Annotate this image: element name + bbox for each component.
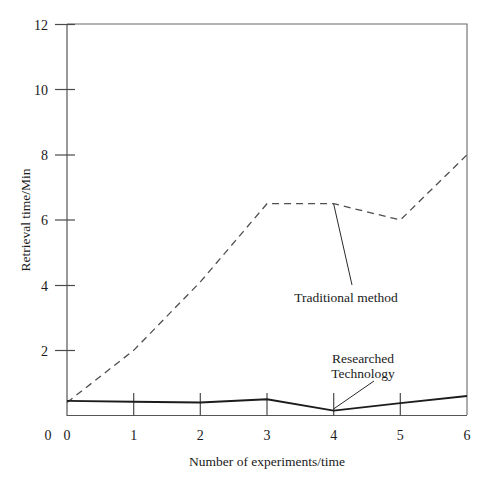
y-axis-ticks [55, 25, 75, 351]
x-axis-title: Number of experiments/time [189, 454, 345, 469]
y-tick-label-10: 10 [34, 83, 48, 98]
line-chart: 12 10 8 6 4 2 0 0 1 2 3 4 5 6 Retrieval … [0, 0, 498, 482]
x-tick-label-3: 3 [264, 428, 271, 443]
y-tick-label-2: 2 [41, 344, 48, 359]
chart-page: 12 10 8 6 4 2 0 0 1 2 3 4 5 6 Retrieval … [0, 0, 498, 482]
x-tick-label-1: 1 [130, 428, 137, 443]
series-traditional-method [67, 155, 467, 403]
leader-line-researched [334, 381, 375, 409]
y-tick-label-8: 8 [41, 148, 48, 163]
annotation-traditional-method: Traditional method [294, 290, 398, 305]
x-tick-label-0: 0 [64, 428, 71, 443]
y-tick-label-0: 0 [45, 428, 52, 443]
x-axis-ticks [134, 393, 401, 416]
annotation-researched-line1: Researched [332, 351, 394, 366]
x-tick-label-2: 2 [197, 428, 204, 443]
leader-line-traditional [334, 204, 352, 285]
y-tick-label-6: 6 [41, 213, 48, 228]
annotation-researched-line2: Technology [331, 366, 395, 381]
x-tick-label-5: 5 [397, 428, 404, 443]
x-tick-label-6: 6 [464, 428, 471, 443]
x-tick-label-4: 4 [330, 428, 337, 443]
y-axis-title: Retrieval time/Min [18, 168, 33, 271]
y-tick-label-4: 4 [41, 279, 48, 294]
y-tick-label-12: 12 [34, 18, 48, 33]
